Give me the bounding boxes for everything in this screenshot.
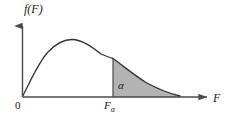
x-axis-label: F — [213, 92, 220, 104]
critical-value-subscript: α — [111, 105, 115, 114]
density-curve — [23, 40, 181, 97]
shaded-tail-region — [113, 59, 180, 98]
critical-value-base: F — [104, 99, 111, 111]
y-axis-label: f(F) — [24, 3, 43, 15]
origin-label: 0 — [15, 100, 21, 111]
f-distribution-figure: f(F) F 0 Fα α — [0, 0, 227, 127]
critical-value-label: Fα — [104, 100, 115, 114]
tail-area-alpha-label: α — [118, 80, 124, 91]
